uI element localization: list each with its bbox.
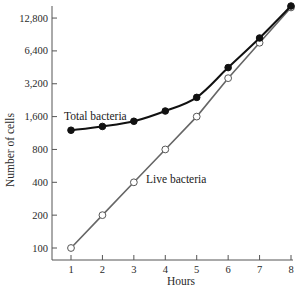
x-ticks: 12345678	[68, 255, 293, 275]
open-point-marker	[130, 179, 137, 186]
filled-point-marker	[68, 127, 75, 134]
y-tick-label: 12,800	[19, 13, 48, 24]
chart: 1002004008001,6003,2006,40012,800 123456…	[0, 0, 297, 289]
x-tick-label: 8	[288, 264, 293, 275]
y-tick-label: 100	[32, 243, 48, 254]
filled-point-marker	[256, 35, 263, 42]
total-bacteria-label: Total bacteria	[64, 110, 127, 122]
open-point-marker	[162, 146, 169, 153]
x-tick-label: 5	[194, 264, 199, 275]
filled-point-marker	[288, 3, 295, 10]
x-tick-label: 4	[163, 264, 169, 275]
x-tick-label: 6	[226, 264, 231, 275]
filled-point-marker	[193, 94, 200, 101]
y-ticks: 1002004008001,6003,2006,40012,800	[19, 13, 57, 254]
x-tick-label: 1	[68, 264, 73, 275]
x-tick-label: 7	[257, 264, 262, 275]
y-tick-label: 800	[32, 144, 48, 155]
filled-point-marker	[225, 64, 232, 71]
x-axis-title: Hours	[167, 275, 196, 287]
y-axis-title: Number of cells	[4, 112, 16, 187]
x-tick-label: 2	[100, 264, 105, 275]
y-tick-label: 400	[32, 177, 48, 188]
y-tick-label: 6,400	[24, 45, 48, 56]
filled-point-marker	[131, 118, 138, 125]
open-point-marker	[99, 212, 106, 219]
filled-point-marker	[99, 123, 106, 130]
open-point-marker	[225, 75, 232, 82]
y-tick-label: 200	[32, 210, 48, 221]
open-point-marker	[68, 245, 75, 252]
open-point-marker	[193, 113, 200, 120]
filled-point-marker	[162, 108, 169, 115]
live-bacteria-label: Live bacteria	[146, 173, 206, 185]
x-tick-label: 3	[131, 264, 136, 275]
y-tick-label: 1,600	[24, 111, 48, 122]
y-tick-label: 3,200	[24, 78, 48, 89]
